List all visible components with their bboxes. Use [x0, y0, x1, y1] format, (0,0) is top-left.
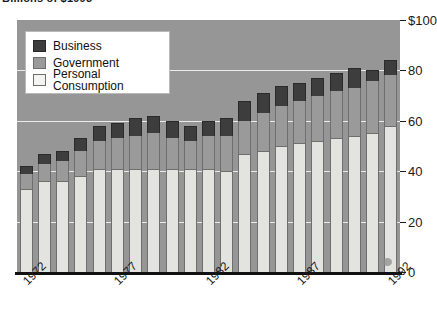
segment-business	[275, 86, 288, 106]
segment-business	[38, 154, 51, 164]
bar-1992[interactable]	[384, 60, 397, 272]
segment-personal-consumption	[184, 169, 197, 272]
segment-personal-consumption	[202, 169, 215, 272]
segment-business	[20, 166, 33, 174]
bar-1972[interactable]	[20, 166, 33, 272]
segment-government	[330, 91, 343, 139]
segment-business	[330, 73, 343, 91]
segment-business	[166, 121, 179, 139]
segment-government	[147, 133, 160, 168]
segment-personal-consumption	[111, 169, 124, 272]
bar-1985[interactable]	[257, 93, 270, 272]
y-axis-tick	[400, 70, 406, 71]
segment-government	[202, 136, 215, 169]
segment-personal-consumption	[384, 126, 397, 272]
segment-personal-consumption	[311, 141, 324, 272]
segment-personal-consumption	[348, 136, 361, 272]
segment-government	[38, 164, 51, 182]
bar-1978[interactable]	[129, 118, 142, 272]
bar-1975[interactable]	[74, 138, 87, 272]
legend-label-business: Business	[53, 40, 102, 52]
personal-consumption-swatch-icon	[33, 74, 46, 86]
segment-business	[293, 83, 306, 101]
bar-1987[interactable]	[293, 83, 306, 272]
page-title: Billions of $1993	[2, 0, 92, 4]
bar-1990[interactable]	[348, 68, 361, 272]
segment-business	[257, 93, 270, 113]
segment-business	[147, 116, 160, 134]
bar-1983[interactable]	[220, 118, 233, 272]
segment-government	[184, 141, 197, 169]
chart-title-strip: Billions of $1993	[0, 0, 434, 7]
y-axis-label: 60	[408, 113, 422, 128]
segment-business	[220, 118, 233, 136]
segment-business	[129, 118, 142, 136]
bar-1981[interactable]	[184, 126, 197, 272]
segment-government	[257, 113, 270, 151]
bar-1988[interactable]	[311, 78, 324, 272]
bar-1986[interactable]	[275, 86, 288, 272]
segment-business	[202, 121, 215, 136]
segment-government	[366, 81, 379, 134]
bar-1989[interactable]	[330, 73, 343, 272]
smudge-artifact	[383, 258, 392, 266]
segment-business	[74, 138, 87, 151]
y-axis-label: $100	[408, 13, 437, 28]
segment-personal-consumption	[220, 171, 233, 272]
segment-personal-consumption	[147, 169, 160, 272]
segment-government	[20, 174, 33, 189]
segment-personal-consumption	[238, 154, 251, 272]
segment-government	[93, 141, 106, 169]
segment-personal-consumption	[20, 189, 33, 272]
segment-personal-consumption	[56, 181, 69, 272]
bar-1977[interactable]	[111, 123, 124, 272]
segment-government	[348, 88, 361, 136]
y-axis-label: 40	[408, 164, 422, 179]
y-axis-tick	[400, 20, 406, 21]
segment-personal-consumption	[330, 138, 343, 272]
segment-business	[184, 126, 197, 141]
segment-personal-consumption	[366, 133, 379, 272]
segment-business	[93, 126, 106, 141]
business-swatch-icon	[33, 40, 46, 52]
segment-personal-consumption	[257, 151, 270, 272]
bar-1980[interactable]	[166, 121, 179, 272]
segment-personal-consumption	[293, 143, 306, 272]
bar-1976[interactable]	[93, 126, 106, 272]
segment-government	[384, 75, 397, 125]
segment-government	[311, 96, 324, 141]
segment-business	[348, 68, 361, 88]
legend-label-personal-consumption: Personal Consumption	[53, 68, 163, 92]
bar-1979[interactable]	[147, 116, 160, 272]
segment-government	[293, 101, 306, 144]
segment-business	[311, 78, 324, 96]
bar-1991[interactable]	[366, 70, 379, 272]
segment-government	[220, 136, 233, 171]
segment-personal-consumption	[93, 169, 106, 272]
segment-government	[129, 136, 142, 169]
y-axis-label: 80	[408, 63, 422, 78]
chart-legend: Business Government Personal Consumption	[25, 31, 170, 94]
segment-government	[238, 121, 251, 154]
segment-personal-consumption	[74, 176, 87, 272]
segment-government	[275, 106, 288, 146]
segment-business	[56, 151, 69, 161]
segment-personal-consumption	[166, 169, 179, 272]
y-axis-tick	[400, 121, 406, 122]
bar-1982[interactable]	[202, 121, 215, 272]
y-axis-tick	[400, 222, 406, 223]
segment-business	[366, 70, 379, 80]
segment-government	[56, 161, 69, 181]
segment-business	[384, 60, 397, 75]
y-axis-tick	[400, 171, 406, 172]
government-swatch-icon	[33, 57, 46, 69]
legend-item-business: Business	[33, 37, 163, 54]
bar-1984[interactable]	[238, 101, 251, 272]
segment-government	[74, 151, 87, 176]
bar-1974[interactable]	[56, 151, 69, 272]
segment-government	[166, 138, 179, 168]
legend-item-personal-consumption: Personal Consumption	[33, 71, 163, 88]
y-axis-label: 20	[408, 214, 422, 229]
bar-1973[interactable]	[38, 154, 51, 272]
segment-government	[111, 138, 124, 168]
